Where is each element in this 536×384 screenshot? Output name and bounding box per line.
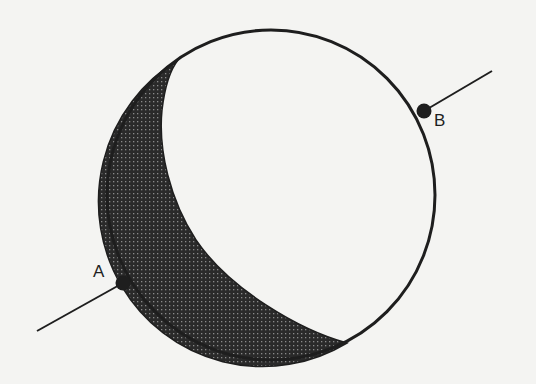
diagram-canvas: A B (0, 0, 536, 384)
point-b-label: B (434, 112, 445, 129)
point-a-dot (116, 276, 131, 291)
point-a-label: A (93, 263, 104, 280)
point-b-dot (417, 104, 432, 119)
axis-line-b (424, 71, 492, 111)
axis-line-a (37, 283, 123, 331)
shaded-crescent (98, 60, 347, 367)
sphere-diagram (0, 0, 536, 384)
